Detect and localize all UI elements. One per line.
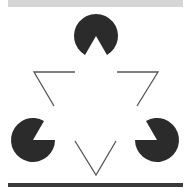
pacman-right: [135, 118, 179, 162]
kanizsa-figure: [0, 0, 195, 192]
pacman-left: [11, 118, 55, 162]
bottom-bar: [8, 183, 183, 187]
triangle-corner-bottom: [75, 141, 116, 175]
triangle-corner-left: [34, 72, 75, 106]
pacman-top: [74, 14, 118, 55]
triangle-corner-right: [117, 72, 158, 106]
